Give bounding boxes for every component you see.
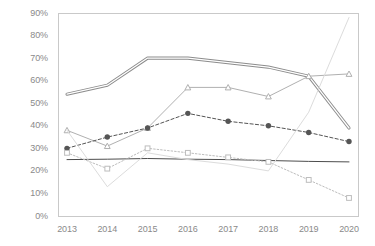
data-point-marker <box>346 139 351 144</box>
y-axis-tick-label: 10% <box>14 189 48 198</box>
y-axis-tick-label: 80% <box>14 31 48 40</box>
y-axis-tick-label: 0% <box>14 212 48 221</box>
x-axis-tick-label: 2016 <box>168 225 208 234</box>
x-axis-tick-label: 2018 <box>248 225 288 234</box>
y-axis-tick-label: 60% <box>14 76 48 85</box>
data-point-marker <box>105 134 110 139</box>
y-axis-tick-label: 40% <box>14 121 48 130</box>
data-point-marker <box>226 155 231 160</box>
y-axis-tick-label: 90% <box>14 9 48 18</box>
data-point-marker <box>347 196 352 201</box>
data-point-marker <box>145 125 150 130</box>
data-point-marker <box>306 130 311 135</box>
x-axis-tick-label: 2013 <box>47 225 87 234</box>
data-point-marker <box>266 123 271 128</box>
y-axis-tick-label: 50% <box>14 99 48 108</box>
x-axis-tick-label: 2020 <box>329 225 369 234</box>
data-point-marker <box>266 159 271 164</box>
data-point-marker <box>306 178 311 183</box>
x-axis-tick-label: 2015 <box>128 225 168 234</box>
x-axis-tick-label: 2017 <box>208 225 248 234</box>
plot-frame <box>59 14 359 217</box>
line-chart: 图1 一种趋势图：不同类别的占比随年份变化情况，共包含六条折线系列 0%10%2… <box>0 0 375 246</box>
y-axis-tick-label: 30% <box>14 144 48 153</box>
series-group-series-5-open-square <box>65 146 352 200</box>
y-axis-tick-label: 70% <box>14 54 48 63</box>
x-axis-tick-label: 2014 <box>87 225 127 234</box>
series-line-series-5-open-square <box>67 148 349 198</box>
plot-area <box>0 0 375 246</box>
data-point-marker <box>185 111 190 116</box>
data-point-marker <box>105 166 110 171</box>
y-axis-tick-label: 20% <box>14 166 48 175</box>
data-point-marker <box>65 150 70 155</box>
data-point-marker <box>104 143 110 148</box>
x-axis-tick-label: 2019 <box>289 225 329 234</box>
data-point-marker <box>145 146 150 151</box>
data-point-marker <box>185 150 190 155</box>
data-point-marker <box>225 119 230 124</box>
